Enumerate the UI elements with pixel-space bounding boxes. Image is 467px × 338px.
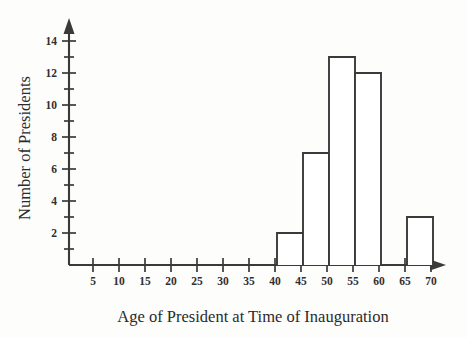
y-tick-label-6: 6 <box>51 163 57 175</box>
x-tick-label-65: 65 <box>399 275 411 287</box>
x-tick-label-10: 10 <box>113 275 125 287</box>
histogram-plot: 2 4 6 8 10 12 14 5 10 <box>0 0 467 338</box>
x-tick-label-70: 70 <box>425 275 437 287</box>
y-tick-label-8: 8 <box>51 131 57 143</box>
x-tick-label-60: 60 <box>373 275 385 287</box>
axes-group <box>64 18 447 271</box>
y-tick-label-12: 12 <box>46 67 58 79</box>
histogram-bar <box>355 73 381 265</box>
x-tick-label-25: 25 <box>191 275 203 287</box>
x-tick-label-5: 5 <box>90 275 96 287</box>
y-tick-label-14: 14 <box>46 35 58 47</box>
histogram-bar <box>407 217 433 265</box>
histogram-bars <box>277 57 433 265</box>
y-tick-label-4: 4 <box>51 195 57 207</box>
histogram-figure: 2 4 6 8 10 12 14 5 10 <box>0 0 467 338</box>
y-axis-title: Number of Presidents <box>15 76 34 220</box>
x-tick-label-50: 50 <box>321 275 333 287</box>
y-axis-arrow-icon <box>64 18 75 34</box>
x-tick-label-45: 45 <box>295 275 307 287</box>
histogram-bar <box>277 233 303 265</box>
x-tick-label-40: 40 <box>269 275 281 287</box>
x-tick-label-30: 30 <box>217 275 229 287</box>
x-tick-label-20: 20 <box>165 275 177 287</box>
y-tick-label-10: 10 <box>46 99 58 111</box>
histogram-bar <box>303 153 329 265</box>
y-tick-label-2: 2 <box>51 227 57 239</box>
x-axis-title: Age of President at Time of Inauguration <box>117 307 388 326</box>
histogram-bar <box>329 57 355 265</box>
x-tick-label-35: 35 <box>243 275 255 287</box>
x-tick-label-55: 55 <box>347 275 359 287</box>
x-tick-label-15: 15 <box>139 275 151 287</box>
x-axis-tick-labels: 5 10 15 20 25 30 35 40 45 50 55 60 65 70 <box>90 275 437 287</box>
y-axis-tick-labels: 2 4 6 8 10 12 14 <box>46 35 58 239</box>
